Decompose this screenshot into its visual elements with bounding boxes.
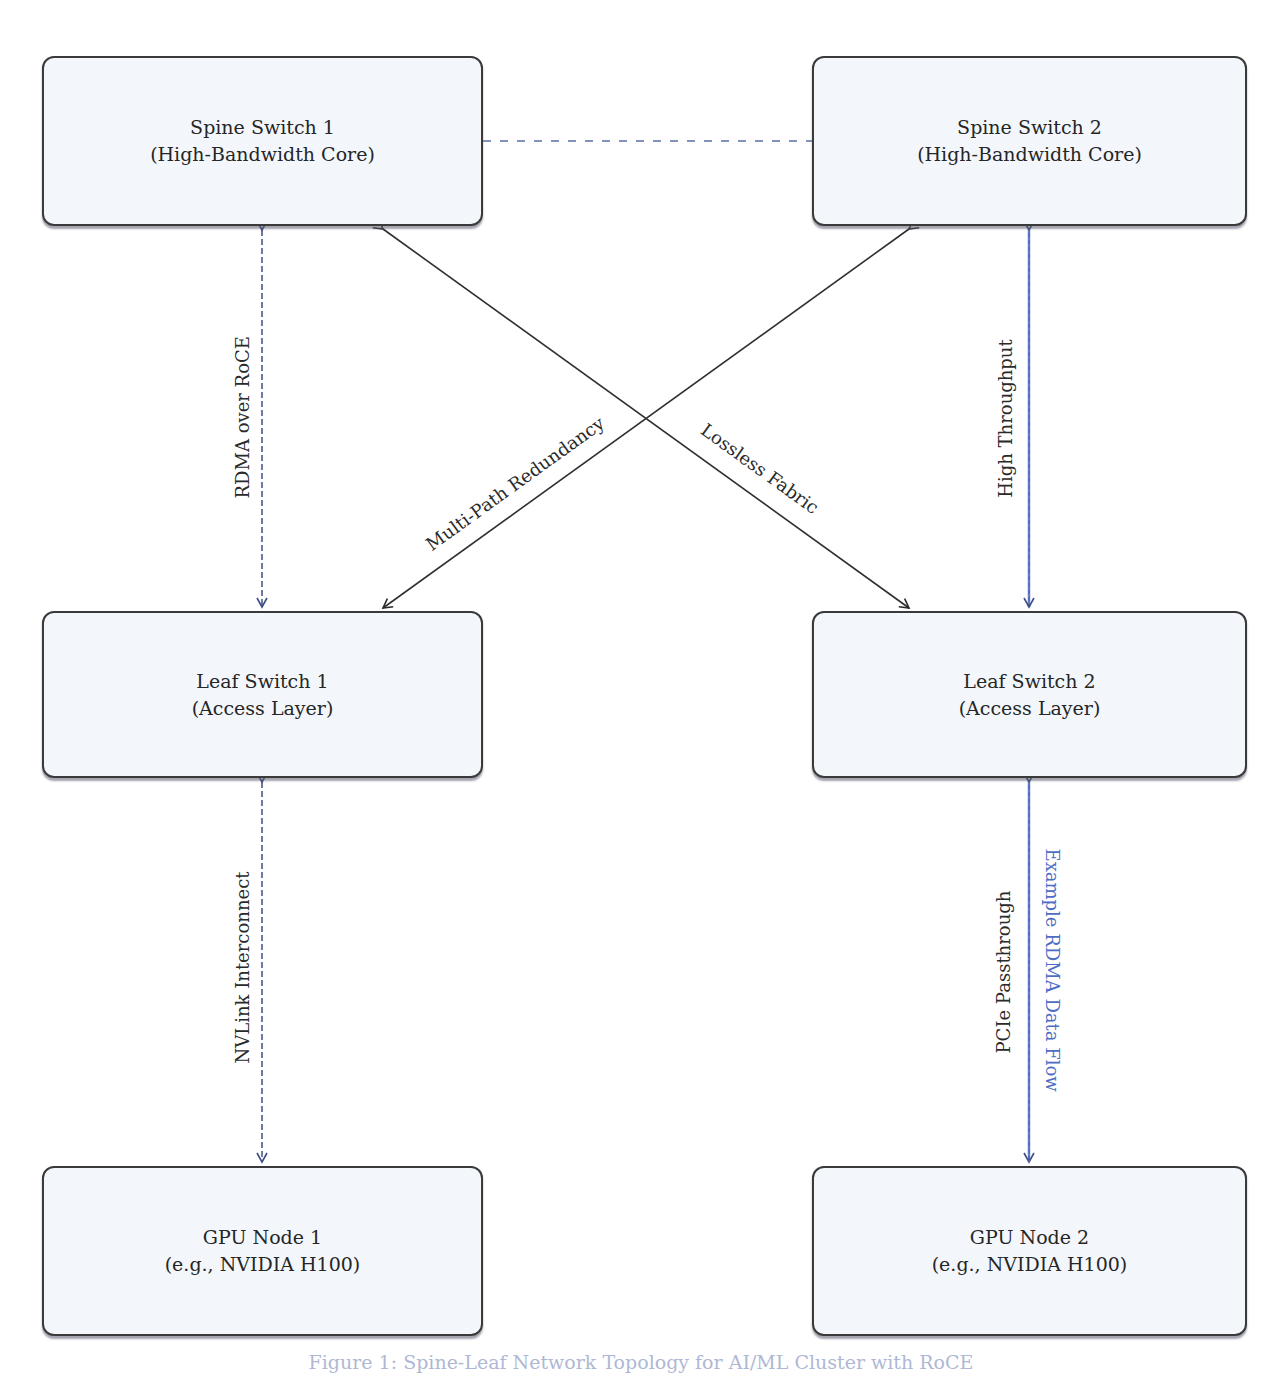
node-leaf-switch-2: Leaf Switch 2 (Access Layer) [812,611,1247,778]
node-subtitle: (e.g., NVIDIA H100) [932,1251,1128,1278]
node-subtitle: (e.g., NVIDIA H100) [165,1251,361,1278]
node-title: Leaf Switch 2 [963,668,1095,695]
node-spine-switch-2: Spine Switch 2 (High-Bandwidth Core) [812,56,1247,226]
node-subtitle: (High-Bandwidth Core) [917,141,1142,168]
node-subtitle: (High-Bandwidth Core) [150,141,375,168]
label-high-throughput: High Throughput [995,339,1016,499]
node-gpu-1: GPU Node 1 (e.g., NVIDIA H100) [42,1166,483,1336]
node-title: GPU Node 1 [203,1224,322,1251]
figure-caption: Figure 1: Spine-Leaf Network Topology fo… [0,1351,1282,1373]
label-nvlink-interconnect: NVLink Interconnect [232,884,253,1064]
node-spine-switch-1: Spine Switch 1 (High-Bandwidth Core) [42,56,483,226]
node-title: Spine Switch 2 [957,114,1102,141]
node-subtitle: (Access Layer) [959,695,1101,722]
node-title: GPU Node 2 [970,1224,1089,1251]
node-subtitle: (Access Layer) [192,695,334,722]
label-example-rdma-data-flow: Example RDMA Data Flow [1042,849,1063,1069]
node-leaf-switch-1: Leaf Switch 1 (Access Layer) [42,611,483,778]
label-pcie-passthrough: PCIe Passthrough [993,894,1014,1054]
node-title: Leaf Switch 1 [196,668,328,695]
label-rdma-over-roce: RDMA over RoCE [232,339,253,499]
node-title: Spine Switch 1 [190,114,335,141]
node-gpu-2: GPU Node 2 (e.g., NVIDIA H100) [812,1166,1247,1336]
